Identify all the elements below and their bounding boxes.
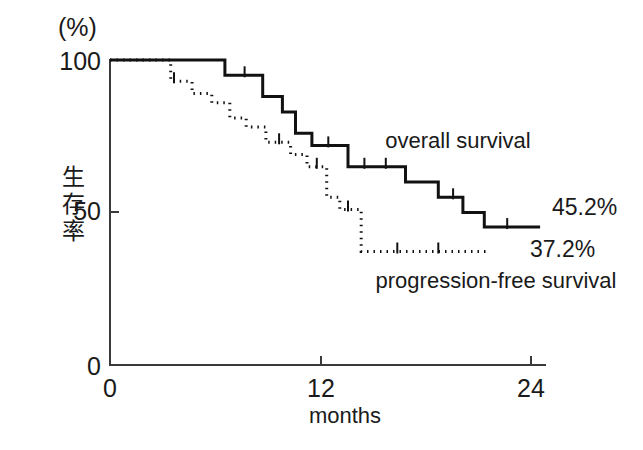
pfs-annotation: progression-free survival (376, 268, 617, 293)
survival-chart: (%) 100 50 0 生 存 率 0 12 24 months o (0, 0, 643, 450)
y-tick-label-0: 0 (87, 352, 101, 380)
x-tick-label-24: 24 (517, 374, 545, 402)
y-axis-title-char-2: 存 (62, 191, 85, 217)
y-axis-title: 生 存 率 (62, 164, 92, 244)
y-axis-unit-label: (%) (58, 13, 97, 41)
y-axis-title-char-1: 生 (62, 164, 85, 190)
x-tick-label-12: 12 (307, 374, 335, 402)
progression-free-survival-curve (110, 60, 488, 252)
x-axis-title: months (309, 403, 381, 428)
y-tick-label-100: 100 (59, 47, 101, 75)
overall-survival-endpoint-label: 45.2% (552, 194, 617, 220)
y-axis-title-char-3: 率 (62, 218, 85, 244)
pfs-endpoint-label: 37.2% (530, 236, 595, 262)
chart-svg: (%) 100 50 0 生 存 率 0 12 24 months o (0, 0, 643, 450)
x-tick-label-0: 0 (103, 374, 117, 402)
overall-survival-annotation: overall survival (385, 128, 531, 153)
